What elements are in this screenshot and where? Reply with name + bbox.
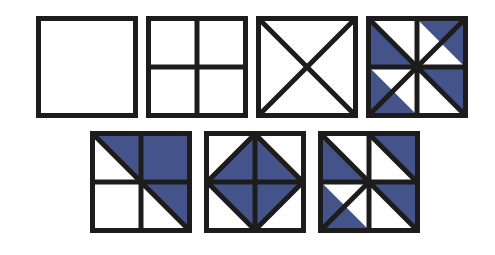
figure-root: [0, 0, 495, 255]
tile-2-svg: [146, 16, 248, 118]
tile-3-svg: [256, 16, 358, 118]
tile-broken-pinwheel: [318, 131, 420, 233]
tile-x-cross-diagonals: [256, 16, 358, 118]
tile-plain-square: [36, 16, 138, 118]
tile-pinwheel-four-quadrant: [366, 16, 468, 118]
tile-1-svg: [36, 16, 138, 118]
outer-border: [39, 19, 136, 116]
tile-four-patch-grid: [146, 16, 248, 118]
tile-6-svg: [204, 131, 306, 233]
tile-7-svg: [318, 131, 420, 233]
fill-topright-full: [141, 134, 189, 182]
tile-half-block-diagonal: [90, 131, 192, 233]
tile-center-diamond: [204, 131, 306, 233]
tile-5-svg: [90, 131, 192, 233]
tile-4-svg: [366, 16, 468, 118]
